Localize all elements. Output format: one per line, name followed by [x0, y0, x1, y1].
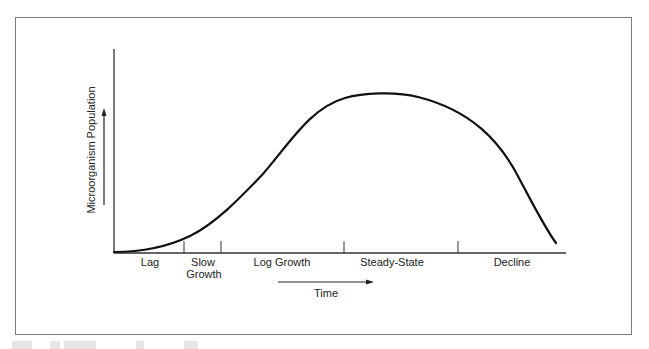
growth-curve-diagram: Microorganism Population Lag Slow Growth… — [0, 0, 649, 349]
y-arrowhead-icon — [102, 108, 107, 116]
phase-label-slow-growth-2: Growth — [186, 268, 221, 280]
y-axis-label: Microorganism Population — [85, 86, 97, 213]
phase-label-slow-growth-1: Slow — [191, 256, 215, 268]
caption-fragment — [136, 341, 144, 349]
phase-label-log-growth: Log Growth — [254, 256, 311, 268]
time-arrowhead-icon — [366, 280, 374, 285]
phase-label-decline: Decline — [494, 256, 531, 268]
growth-curve — [114, 93, 556, 252]
phase-label-steady-state: Steady-State — [360, 256, 424, 268]
caption-fragment — [184, 341, 198, 349]
caption-fragment — [12, 341, 32, 349]
caption-fragment — [64, 341, 96, 349]
x-axis-label: Time — [314, 287, 338, 299]
phase-label-lag: Lag — [141, 256, 159, 268]
caption-fragment — [50, 341, 60, 349]
